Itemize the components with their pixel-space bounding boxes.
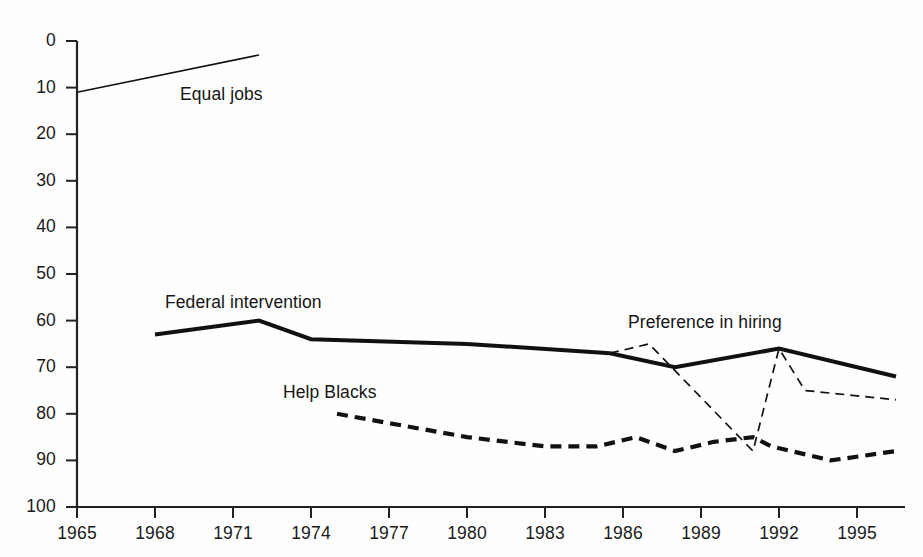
- y-axis-tick-label: 80: [10, 403, 56, 424]
- series-label-equal-jobs: Equal jobs: [180, 84, 263, 105]
- chart-plot-area: [0, 0, 923, 557]
- y-axis-tick-label: 0: [10, 30, 56, 51]
- y-axis-tick-label: 20: [10, 123, 56, 144]
- y-axis-tick-label: 10: [10, 77, 56, 98]
- x-axis-tick-label: 1989: [666, 523, 736, 544]
- y-axis-tick-label: 90: [10, 449, 56, 470]
- y-axis-tick-label: 60: [10, 310, 56, 331]
- x-axis-tick-label: 1971: [198, 523, 268, 544]
- y-axis-tick-label: 40: [10, 216, 56, 237]
- x-axis-tick-label: 1968: [120, 523, 190, 544]
- x-axis-tick-label: 1977: [354, 523, 424, 544]
- chart-container: 0102030405060708090100 19651968197119741…: [0, 0, 923, 557]
- y-axis-tick-label: 100: [10, 496, 56, 517]
- x-axis-tick-label: 1965: [42, 523, 112, 544]
- x-axis-tick-label: 1980: [432, 523, 502, 544]
- y-axis-tick-label: 50: [10, 263, 56, 284]
- x-axis-tick-label: 1992: [744, 523, 814, 544]
- x-axis-tick-label: 1995: [822, 523, 892, 544]
- x-axis-tick-label: 1983: [510, 523, 580, 544]
- series-label-federal-intervention: Federal intervention: [165, 292, 322, 313]
- data-series-group: [77, 55, 896, 460]
- y-axis-tick-label: 70: [10, 356, 56, 377]
- series-label-help-blacks: Help Blacks: [283, 382, 377, 403]
- y-axis-tick-label: 30: [10, 170, 56, 191]
- series-line-federal-intervention: [155, 321, 896, 377]
- series-line-help-blacks: [337, 414, 896, 461]
- y-axis-ticks: [66, 41, 77, 507]
- x-axis-tick-label: 1974: [276, 523, 346, 544]
- series-label-preference-in-hiring: Preference in hiring: [628, 312, 782, 333]
- x-axis-tick-label: 1986: [588, 523, 658, 544]
- axis-lines: [77, 41, 905, 507]
- x-axis-ticks: [77, 507, 857, 518]
